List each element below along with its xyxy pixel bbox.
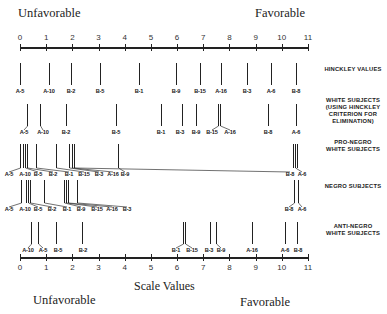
- value-mark-label: B-1: [172, 247, 181, 253]
- row-title: PRO-NEGROWHITE SUBJECTS: [318, 139, 387, 153]
- value-mark-label: A-10: [22, 247, 34, 253]
- axis-tick: [46, 254, 47, 261]
- value-mark: [285, 222, 286, 244]
- value-mark: [26, 180, 27, 203]
- value-mark-label: A-16: [246, 247, 258, 253]
- value-mark-label: B-2: [48, 206, 57, 212]
- axis-tick: [72, 254, 73, 261]
- value-mark: [36, 144, 37, 168]
- value-mark-label: B-2: [62, 129, 71, 135]
- value-mark: [30, 180, 31, 203]
- value-mark-label: B-9: [121, 171, 130, 177]
- value-mark-label: B-3: [243, 88, 252, 94]
- value-mark: [220, 104, 221, 126]
- axis-tick: [256, 254, 257, 261]
- value-mark-label: B-3: [95, 171, 104, 177]
- value-mark-label: B-5: [54, 247, 63, 253]
- value-mark-label: A-16: [106, 206, 118, 212]
- value-mark-label: B-2: [67, 88, 76, 94]
- value-mark: [221, 63, 222, 85]
- value-mark-label: B-9: [217, 247, 226, 253]
- axis-tick: [177, 254, 178, 261]
- axis-tick-label: 2: [70, 263, 74, 272]
- row-title-line: WHITE SUBJECTS: [318, 146, 387, 153]
- value-mark: [118, 144, 119, 168]
- row-title: WHITE SUBJECTS(USING HINCKLEYCRITERION F…: [318, 97, 387, 125]
- value-mark: [196, 104, 197, 126]
- value-mark: [296, 104, 297, 126]
- value-mark: [294, 180, 295, 203]
- value-mark: [40, 104, 41, 126]
- value-mark-label: B-5: [96, 88, 105, 94]
- value-mark: [66, 104, 67, 126]
- value-mark: [252, 222, 253, 244]
- value-mark-label: B-1: [135, 88, 144, 94]
- value-mark: [20, 144, 21, 168]
- value-mark: [247, 63, 248, 85]
- value-mark-label: A-10: [37, 129, 49, 135]
- row-title-line: CRITERION FOR: [318, 111, 387, 118]
- axis-tick-label: 0: [18, 263, 22, 272]
- value-mark: [182, 104, 183, 126]
- value-mark-label: A-16: [107, 171, 119, 177]
- axis-tick-label: 3: [96, 263, 100, 272]
- x-axis-title: Scale Values: [134, 279, 195, 294]
- value-mark-label: A-6: [298, 171, 307, 177]
- value-mark-label: B-15: [91, 206, 103, 212]
- row-title-line: (USING HINCKLEY: [318, 104, 387, 111]
- value-mark: [31, 222, 32, 244]
- value-mark: [49, 63, 50, 85]
- row-title-line: HINCKLEY VALUES: [318, 66, 387, 73]
- axis-tick-label: 9: [253, 263, 257, 272]
- value-mark: [100, 63, 101, 85]
- value-mark-label: A-5: [39, 247, 48, 253]
- value-mark-label: A-16: [215, 88, 227, 94]
- value-mark: [68, 180, 69, 203]
- axis-tick: [151, 254, 152, 261]
- value-mark-label: B-8: [285, 206, 294, 212]
- value-mark: [69, 144, 70, 168]
- value-mark: [25, 144, 26, 168]
- axis-tick-label: 5: [149, 263, 153, 272]
- value-mark-label: B-15: [186, 247, 198, 253]
- value-mark: [268, 104, 269, 126]
- value-mark: [27, 144, 28, 168]
- value-mark-label: B-1: [63, 206, 72, 212]
- value-mark: [21, 180, 22, 203]
- value-mark-label: B-5: [34, 206, 43, 212]
- value-mark: [297, 222, 298, 244]
- value-mark: [28, 180, 29, 203]
- value-mark-label: A-6: [281, 247, 290, 253]
- value-mark-label: A-5: [5, 206, 14, 212]
- value-mark: [216, 222, 217, 244]
- value-mark-label: A-5: [20, 129, 29, 135]
- axis-tick-label: 1: [44, 263, 48, 272]
- value-mark-label: B-8: [294, 247, 303, 253]
- axis-tick: [203, 254, 204, 261]
- value-mark: [218, 104, 219, 126]
- value-mark-label: B-15: [206, 129, 218, 135]
- value-mark-label: B-5: [34, 171, 43, 177]
- value-mark-label: A-10: [19, 206, 31, 212]
- value-mark: [56, 144, 57, 168]
- value-mark: [298, 180, 299, 203]
- value-mark: [210, 222, 211, 244]
- row-title-line: ANTI-NEGRO: [318, 223, 387, 230]
- value-mark-label: B-8: [286, 171, 295, 177]
- row-title: HINCKLEY VALUES: [318, 66, 387, 73]
- value-mark: [23, 144, 24, 168]
- value-mark: [38, 222, 39, 244]
- value-mark: [161, 104, 162, 126]
- axis-tick-label: 6: [175, 263, 179, 272]
- value-mark-label: A-16: [224, 129, 236, 135]
- value-mark-label: A-5: [16, 88, 25, 94]
- axis-tick: [308, 254, 309, 261]
- axis-tick: [229, 254, 230, 261]
- value-mark-label: A-10: [19, 171, 31, 177]
- value-mark: [27, 104, 28, 126]
- value-mark: [295, 144, 296, 168]
- value-mark: [71, 63, 72, 85]
- value-mark-label: A-6: [298, 206, 307, 212]
- value-mark-label: A-5: [5, 171, 14, 177]
- axis-line: [20, 257, 308, 259]
